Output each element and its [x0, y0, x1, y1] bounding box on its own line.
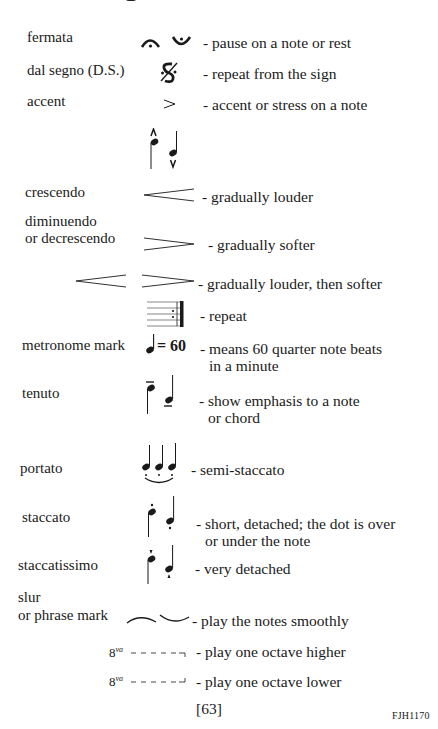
- accent-icon: [163, 99, 177, 109]
- desc-diminuendo: - gradually softer: [208, 235, 315, 254]
- desc-tenuto-line2: or chord: [208, 408, 260, 427]
- portato-notes-icon: [140, 443, 190, 489]
- cresc-dim-hairpins-icon: [74, 273, 200, 289]
- desc-accent: - accent or stress on a note: [203, 95, 367, 114]
- ottava-bassa-suffix: va: [116, 674, 124, 683]
- segno-icon: [158, 60, 180, 84]
- tenuto-notes-icon: [142, 372, 182, 418]
- term-diminuendo-line1: diminuendo: [25, 213, 97, 230]
- ottava-bassa-icon: 8va: [109, 674, 123, 690]
- staccato-notes-icon: [143, 495, 183, 541]
- crescendo-hairpin-icon: [142, 187, 198, 203]
- desc-metronome-line2: in a minute: [209, 356, 279, 375]
- desc-fermata: - pause on a note or rest: [203, 33, 351, 52]
- fermata-icon: [140, 34, 200, 52]
- desc-ottava-alta: - play one octave higher: [196, 642, 346, 661]
- term-slur-line2: or phrase mark: [18, 607, 108, 624]
- desc-cresc-dim: - gradually louder, then softer: [198, 274, 382, 293]
- page-number: [63]: [196, 700, 222, 718]
- desc-staccato-line2: or under the note: [205, 531, 310, 550]
- marcato-notes-icon: [145, 128, 185, 174]
- diminuendo-hairpin-icon: [142, 236, 198, 252]
- term-accent: accent: [27, 93, 65, 110]
- term-metronome: metronome mark: [22, 337, 125, 354]
- desc-ottava-bassa: - play one octave lower: [196, 672, 341, 691]
- ottava-alta-icon: 8va: [109, 645, 123, 661]
- desc-staccatissimo: - very detached: [195, 559, 291, 578]
- desc-crescendo: - gradually louder: [202, 187, 313, 206]
- ottava-bassa-dashes: [130, 674, 190, 686]
- catalog-code: FJH1170: [392, 710, 430, 721]
- term-portato: portato: [20, 460, 63, 477]
- term-diminuendo-line2: or decrescendo: [25, 230, 115, 247]
- term-dal-segno: dal segno (D.S.): [27, 62, 125, 79]
- desc-portato: - semi-staccato: [191, 460, 284, 479]
- repeat-barline-icon: [147, 300, 187, 330]
- desc-dal-segno: - repeat from the sign: [203, 64, 336, 83]
- term-fermata: fermata: [27, 29, 73, 46]
- ottava-alta-dashes: [130, 648, 190, 658]
- ottava-alta-suffix: va: [116, 645, 124, 654]
- desc-repeat: - repeat: [200, 306, 247, 325]
- desc-slur: - play the notes smoothly: [192, 611, 349, 630]
- clipped-heading-fragment: [125, 0, 137, 1]
- staccatissimo-notes-icon: [142, 544, 182, 586]
- quarter-note-icon: [145, 333, 157, 355]
- term-tenuto: tenuto: [22, 385, 60, 402]
- term-staccatissimo: staccatissimo: [18, 557, 98, 574]
- term-crescendo: crescendo: [25, 184, 85, 201]
- metronome-value: = 60: [157, 337, 186, 355]
- slur-icon: [126, 612, 192, 626]
- term-slur-line1: slur: [18, 589, 41, 606]
- term-staccato: staccato: [22, 509, 70, 526]
